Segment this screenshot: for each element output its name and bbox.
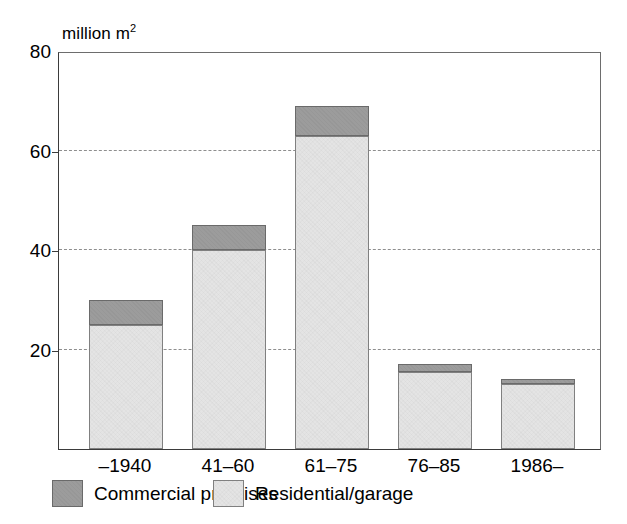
bar-segment-commercial[interactable] xyxy=(295,106,369,136)
bar-group[interactable] xyxy=(398,364,472,449)
x-axis-tick-label-0: –1940 xyxy=(88,455,162,477)
bar-group[interactable] xyxy=(89,300,163,449)
bar-segment-commercial[interactable] xyxy=(192,225,266,250)
bar-group[interactable] xyxy=(295,106,369,449)
x-axis-tick-label-2: 61–75 xyxy=(294,455,368,477)
y-axis-unit-superscript: 2 xyxy=(130,22,136,34)
y-axis-tick-label-80: 80 xyxy=(30,41,58,63)
bar-segment-residential[interactable] xyxy=(295,136,369,449)
bar-group[interactable] xyxy=(501,379,575,449)
y-axis-unit-label: million m2 xyxy=(62,24,136,44)
bar-segment-residential[interactable] xyxy=(89,325,163,449)
bar-chart: million m2 20406080 –194041–6061–7576–85… xyxy=(0,0,627,524)
bar-segment-residential[interactable] xyxy=(192,250,266,449)
x-axis-tick-label-4: 1986– xyxy=(500,455,574,477)
x-axis-tick-label-1: 41–60 xyxy=(191,455,265,477)
y-axis-unit-text: million m xyxy=(62,24,130,43)
legend-swatch-commercial xyxy=(52,480,83,507)
legend-entry-residential[interactable]: Residential/garage xyxy=(213,480,413,507)
y-axis-tick-labels: 20406080 xyxy=(0,52,58,450)
bar-segment-commercial[interactable] xyxy=(398,364,472,371)
plot-area xyxy=(58,52,601,450)
bar-segment-residential[interactable] xyxy=(398,372,472,449)
legend-swatch-residential xyxy=(213,480,244,507)
bar-segment-commercial[interactable] xyxy=(501,379,575,384)
chart-legend: Commercial premisesResidential/garage xyxy=(0,480,627,520)
legend-label-residential: Residential/garage xyxy=(255,483,413,505)
x-axis-tick-label-3: 76–85 xyxy=(397,455,471,477)
bar-group[interactable] xyxy=(192,225,266,449)
bar-segment-residential[interactable] xyxy=(501,384,575,449)
bar-segment-commercial[interactable] xyxy=(89,300,163,325)
